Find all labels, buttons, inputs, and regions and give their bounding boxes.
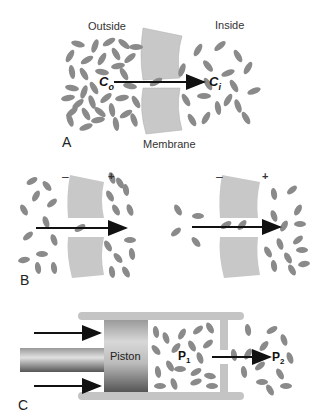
c-outside-label: Co <box>99 74 114 92</box>
pos-charge-right: + <box>262 170 268 182</box>
neg-charge-right: – <box>216 170 223 184</box>
piston-label: Piston <box>110 350 141 362</box>
inside-label: Inside <box>215 19 244 31</box>
p2-label: P2 <box>272 350 284 366</box>
panel-letter-b: B <box>20 272 29 288</box>
membrane-b-left <box>67 175 104 278</box>
membrane-label: Membrane <box>143 138 196 150</box>
outside-label: Outside <box>88 20 126 32</box>
neg-charge-left: – <box>62 170 69 184</box>
pos-charge-left: + <box>108 170 114 182</box>
panel-letter-a: A <box>62 134 71 150</box>
piston-rod <box>20 348 106 372</box>
p1-label: P1 <box>178 349 190 365</box>
c-inside-label: Ci <box>209 74 221 92</box>
molecules-outflow <box>230 324 295 397</box>
panel-letter-c: C <box>18 397 28 413</box>
